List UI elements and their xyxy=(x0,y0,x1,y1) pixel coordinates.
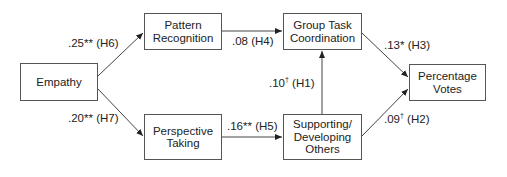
edge-label-h6: .25** (H6) xyxy=(68,37,119,50)
edge-label-h5-sig: ** xyxy=(243,120,252,132)
edge-label-h4-coef: .08 xyxy=(232,35,248,47)
edge-label-h5: .16** (H5) xyxy=(227,120,278,133)
node-perspective-taking: Perspective Taking xyxy=(144,114,222,160)
edge-label-h1-sig: † xyxy=(285,76,289,83)
node-percentage-votes: Percentage Votes xyxy=(409,64,486,101)
edge-label-h2-sig: † xyxy=(400,112,404,119)
edge-label-h7-hyp: (H7) xyxy=(96,112,118,124)
node-supporting-developing-others-label: Supporting/ Developing Others xyxy=(293,118,352,156)
edge-label-h6-coef: .25 xyxy=(68,37,84,49)
node-percentage-votes-label: Percentage Votes xyxy=(418,70,477,95)
edge-label-h2-hyp: (H2) xyxy=(407,113,429,125)
edge-label-h1-coef: .10 xyxy=(269,77,285,89)
edge-label-h3-hyp: (H3) xyxy=(408,39,430,51)
edge-label-h3-coef: .13 xyxy=(384,39,400,51)
edge-label-h7: .20** (H7) xyxy=(68,112,119,125)
edge-label-h1: .10† (H1) xyxy=(269,77,314,90)
node-perspective-taking-label: Perspective Taking xyxy=(153,125,213,150)
edge-label-h5-coef: .16 xyxy=(227,120,243,132)
edge-label-h7-sig: ** xyxy=(84,112,93,124)
path-diagram: Empathy Pattern Recognition Perspective … xyxy=(0,0,507,177)
node-supporting-developing-others: Supporting/ Developing Others xyxy=(283,114,362,160)
node-empathy-label: Empathy xyxy=(36,76,81,89)
edge-label-h6-hyp: (H6) xyxy=(96,37,118,49)
edge-label-h3-sig: * xyxy=(400,39,404,51)
node-empathy: Empathy xyxy=(20,63,98,101)
edge-label-h5-hyp: (H5) xyxy=(255,120,277,132)
node-pattern-recognition-label: Pattern Recognition xyxy=(153,19,214,44)
edge-label-h4-hyp: (H4) xyxy=(251,35,273,47)
edge-label-h2-coef: .09 xyxy=(384,113,400,125)
node-pattern-recognition: Pattern Recognition xyxy=(144,13,222,50)
edge-label-h3: .13* (H3) xyxy=(384,39,430,52)
edge-label-h1-hyp: (H1) xyxy=(292,77,314,89)
node-group-task-coordination-label: Group Task Coordination xyxy=(290,19,355,44)
edge-label-h4: .08 (H4) xyxy=(232,35,274,48)
edge-label-h6-sig: ** xyxy=(84,37,93,49)
node-group-task-coordination: Group Task Coordination xyxy=(283,13,362,50)
edge-label-h2: .09† (H2) xyxy=(384,113,429,126)
edge-label-h7-coef: .20 xyxy=(68,112,84,124)
